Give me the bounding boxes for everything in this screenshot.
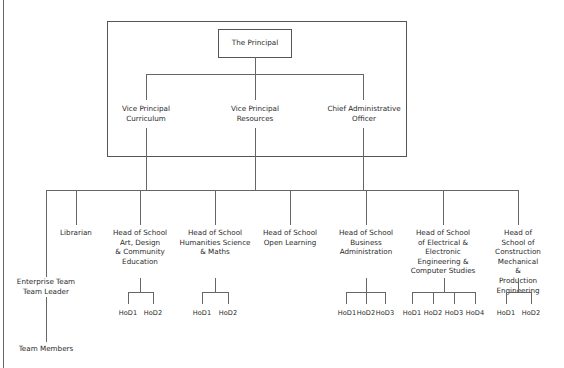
hod: HoD1: [193, 309, 211, 317]
chief-administrative-officer: Chief Administrative Officer: [327, 104, 400, 123]
connector: [128, 292, 153, 293]
head-electrical: Head of School of Electrical & Electroni…: [411, 228, 476, 276]
head-art-design: Head of School Art, Design & Community E…: [113, 228, 167, 266]
connector: [46, 190, 519, 191]
connector: [454, 292, 455, 304]
connector: [531, 292, 532, 304]
connector: [202, 292, 203, 304]
team-members: Team Members: [19, 344, 74, 354]
hod: HoD2: [522, 309, 540, 317]
hod: HoD1: [403, 309, 421, 317]
connector: [140, 278, 141, 292]
connector: [363, 128, 364, 190]
connector: [202, 292, 228, 293]
head-business-admin: Head of School Business Administration: [339, 228, 393, 257]
connector: [366, 278, 367, 304]
vp-resources: Vice Principal Resources: [231, 104, 279, 123]
connector: [146, 128, 147, 190]
connector: [146, 74, 364, 75]
hod: HoD1: [497, 309, 515, 317]
head-open-learning: Head of School Open Learning: [263, 228, 317, 247]
hod: HoD1: [338, 309, 356, 317]
connector: [518, 190, 519, 225]
connector: [412, 292, 413, 304]
connector: [346, 292, 347, 304]
connector: [228, 292, 229, 304]
page-left-border: [3, 0, 4, 368]
connector: [215, 190, 216, 225]
hod: HoD2: [144, 309, 162, 317]
connector: [363, 74, 364, 100]
hod: HoD1: [119, 309, 137, 317]
connector: [255, 128, 256, 190]
connector: [412, 292, 475, 293]
connector: [215, 278, 216, 292]
connector: [475, 292, 476, 304]
connector: [146, 74, 147, 100]
connector: [46, 297, 47, 342]
connector: [506, 292, 531, 293]
hod: HoD3: [445, 309, 463, 317]
principal-label: The Principal: [232, 38, 278, 48]
connector: [46, 190, 47, 278]
hod: HoD2: [424, 309, 442, 317]
vp-curriculum: Vice Principal Curriculum: [122, 104, 170, 123]
connector: [366, 190, 367, 225]
hod: HoD3: [376, 309, 394, 317]
enterprise-team-leader: Enterprise Team Team Leader: [17, 277, 75, 296]
connector: [444, 278, 445, 292]
hod: HoD2: [357, 309, 375, 317]
connector: [518, 278, 519, 292]
librarian: Librarian: [60, 228, 92, 238]
connector: [140, 190, 141, 225]
hod: HoD4: [466, 309, 484, 317]
hod: HoD2: [219, 309, 237, 317]
head-humanities: Head of School Humanities Science & Math…: [179, 228, 250, 257]
connector: [76, 190, 77, 225]
connector: [255, 57, 256, 100]
connector: [290, 190, 291, 225]
connector: [153, 292, 154, 304]
connector: [128, 292, 129, 304]
connector: [443, 190, 444, 225]
connector: [346, 292, 385, 293]
connector: [433, 292, 434, 304]
connector: [506, 292, 507, 304]
connector: [385, 292, 386, 304]
